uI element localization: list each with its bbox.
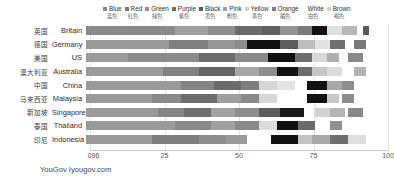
bar-segment <box>86 53 128 62</box>
stacked-bar <box>86 94 384 103</box>
row-label-zh: 美国 <box>0 53 52 63</box>
row-label-en: Malaysia <box>52 94 86 103</box>
bar-segment <box>86 135 152 144</box>
chart-row: 印尼Indonesia <box>0 133 389 147</box>
bar-segment <box>330 121 342 130</box>
legend-swatch-icon <box>199 7 203 11</box>
stacked-bar <box>86 135 384 144</box>
row-label-zh: 英国 <box>0 26 52 36</box>
x-axis-tick-label: 50 <box>235 152 243 159</box>
bar-segment <box>199 67 235 76</box>
bar-segment <box>271 135 298 144</box>
chart-row: 澳大利亚Australia <box>0 65 389 79</box>
bar-segment <box>342 81 354 90</box>
bar-segment <box>298 121 316 130</box>
bar-segment <box>86 121 175 130</box>
bar-segment <box>235 121 259 130</box>
bar-segment <box>86 94 152 103</box>
chart-rows: 英国Britain德国Germany美国US澳大利亚Australia中国Chi… <box>0 24 389 146</box>
bar-segment <box>235 108 259 117</box>
bar-segment <box>277 121 298 130</box>
legend-swatch-icon <box>245 7 249 11</box>
row-label-zh: 中国 <box>0 80 52 90</box>
legend-item-green: Green绿色 <box>145 5 169 19</box>
bar-segment <box>235 26 262 35</box>
legend-label-zh: 粉色 <box>227 13 237 19</box>
chart-row: 新加坡Singapore <box>0 106 389 120</box>
bar-segment <box>348 135 366 144</box>
bar-segment <box>152 94 182 103</box>
legend-item-orange: Orange橘色 <box>272 5 299 19</box>
row-label-en: Britain <box>52 26 86 35</box>
row-label-en: Germany <box>52 40 86 49</box>
bar-segment <box>86 81 181 90</box>
legend-label-en: Orange <box>278 5 299 12</box>
bar-segment <box>280 40 298 49</box>
bar-segment <box>241 94 259 103</box>
bar-segment <box>307 81 328 90</box>
bar-segment <box>327 94 339 103</box>
bar-segment <box>128 53 200 62</box>
x-axis-tick-label: 100 <box>382 152 394 159</box>
stacked-bar <box>86 108 384 117</box>
bar-segment <box>315 40 330 49</box>
legend-label-en: Purple <box>178 5 196 12</box>
row-label-en: China <box>52 81 86 90</box>
legend-swatch-icon <box>327 7 331 11</box>
bar-segment <box>152 135 200 144</box>
stacked-bar <box>86 67 384 76</box>
legend-swatch-icon <box>302 7 306 11</box>
bar-segment <box>295 53 313 62</box>
legend-label-en: Green <box>151 5 169 12</box>
bar-segment <box>312 67 327 76</box>
bar-segment <box>158 108 185 117</box>
bar-segment <box>327 53 339 62</box>
legend-label-en: White <box>308 5 324 12</box>
bar-segment <box>259 81 277 90</box>
bar-segment <box>348 108 363 117</box>
legend-label-en: Red <box>131 5 143 12</box>
bar-segment <box>298 26 313 35</box>
legend-label-en: Black <box>205 5 220 12</box>
chart-row: 美国US <box>0 51 389 65</box>
bar-segment <box>312 26 327 35</box>
row-label-zh: 新加坡 <box>0 107 52 117</box>
bar-segment <box>342 26 357 35</box>
bar-segment <box>327 67 342 76</box>
row-label-zh: 马来西亚 <box>0 94 52 104</box>
legend-label-zh: 蓝色 <box>107 13 117 19</box>
bar-segment <box>327 81 342 90</box>
bar-segment <box>315 108 330 117</box>
legend-label-zh: 绿色 <box>152 13 162 19</box>
legend-label-zh: 橘色 <box>280 13 290 19</box>
legend-label-zh: 紫色 <box>179 13 189 19</box>
bar-segment <box>330 40 345 49</box>
bar-segment <box>307 94 328 103</box>
bar-segment <box>312 135 330 144</box>
bar-segment <box>259 94 277 103</box>
legend-label-en: Pink <box>229 5 241 12</box>
bar-segment <box>184 108 211 117</box>
x-axis-tick-label: 25 <box>161 152 169 159</box>
bar-segment <box>354 67 366 76</box>
bar-segment <box>163 67 199 76</box>
row-label-en: Thailand <box>52 121 86 130</box>
bar-segment <box>86 40 169 49</box>
chart-row: 中国China <box>0 78 389 92</box>
bar-segment <box>330 135 348 144</box>
bar-segment <box>226 135 247 144</box>
bar-segment <box>354 40 366 49</box>
chart-row: 英国Britain <box>0 24 389 38</box>
bar-segment <box>348 53 363 62</box>
bar-segment <box>214 81 241 90</box>
bar-segment <box>208 26 235 35</box>
stacked-bar <box>86 81 384 90</box>
bar-segment <box>211 121 235 130</box>
bar-segment <box>175 121 211 130</box>
bar-segment <box>217 94 241 103</box>
legend-item-brown: Brown褐色 <box>327 5 351 19</box>
bar-segment <box>277 67 298 76</box>
bar-segment <box>298 40 316 49</box>
bar-segment <box>235 40 247 49</box>
row-label-zh: 印尼 <box>0 135 52 145</box>
